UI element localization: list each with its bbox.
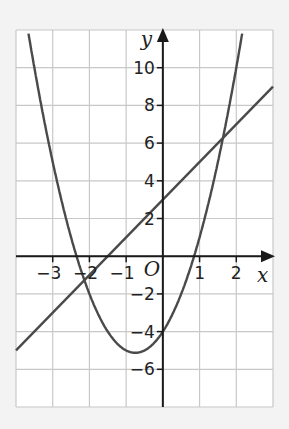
y-tick-label: −4 <box>130 322 155 342</box>
x-tick-label: 2 <box>231 263 242 283</box>
graph: −3−2−112−6−4−2246810xyO <box>0 0 289 429</box>
y-tick-label: −6 <box>130 359 155 379</box>
y-tick-label: −2 <box>130 284 155 304</box>
x-tick-label: −1 <box>110 263 135 283</box>
x-tick-label: −3 <box>36 263 61 283</box>
y-tick-label: 4 <box>144 171 155 191</box>
y-tick-label: 8 <box>144 95 155 115</box>
y-axis-label: y <box>140 27 153 51</box>
y-tick-label: 6 <box>144 133 155 153</box>
x-axis-label: x <box>257 263 268 287</box>
origin-label: O <box>144 257 160 281</box>
y-tick-label: 10 <box>133 58 155 78</box>
y-tick-label: 2 <box>144 209 155 229</box>
x-tick-label: 1 <box>194 263 205 283</box>
x-tick-label: −2 <box>73 263 98 283</box>
